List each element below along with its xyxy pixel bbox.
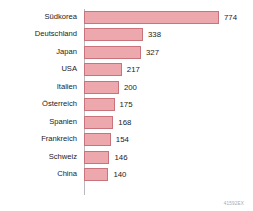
bar-track: 175 [84, 98, 253, 111]
bar-value-label: 327 [146, 48, 159, 57]
chart-title [8, 0, 208, 2]
bar-value-label: 338 [148, 30, 161, 39]
plot-area: Südkorea774Deutschland338Japan327USA217I… [0, 9, 253, 195]
bar-track: 327 [84, 46, 253, 59]
category-label: Südkorea [0, 12, 77, 21]
bar-value-label: 200 [124, 83, 137, 92]
bar-track: 200 [84, 81, 253, 94]
bar-row: Schweiz146 [0, 149, 253, 167]
bar [84, 151, 109, 164]
bar-row: Österreich175 [0, 97, 253, 115]
bar-track: 146 [84, 151, 253, 164]
bar-track: 154 [84, 133, 253, 146]
bar-row: China140 [0, 167, 253, 185]
bar-row: USA217 [0, 62, 253, 80]
bar-track: 217 [84, 63, 253, 76]
bar-row: Italien200 [0, 79, 253, 97]
bar [84, 116, 113, 129]
bar-value-label: 217 [127, 65, 140, 74]
bar-chart: Südkorea774Deutschland338Japan327USA217I… [0, 0, 253, 211]
bar-row: Spanien168 [0, 114, 253, 132]
bar-track: 140 [84, 168, 253, 181]
bar [84, 28, 143, 41]
bar-row: Japan327 [0, 44, 253, 62]
bar-row: Frankreich154 [0, 132, 253, 150]
bar-value-label: 140 [113, 170, 126, 179]
bar-row: Deutschland338 [0, 27, 253, 45]
category-label: USA [0, 64, 77, 73]
bar-track: 774 [84, 11, 253, 24]
category-label: Deutschland [0, 29, 77, 38]
bar-value-label: 154 [116, 135, 129, 144]
bar [84, 133, 111, 146]
category-label: Schweiz [0, 152, 77, 161]
bar [84, 168, 108, 181]
bar-row: Südkorea774 [0, 9, 253, 27]
category-label: Japan [0, 47, 77, 56]
category-label: Spanien [0, 117, 77, 126]
bar-value-label: 168 [118, 118, 131, 127]
bar-value-label: 175 [120, 100, 133, 109]
category-label: Frankreich [0, 134, 77, 143]
category-label: China [0, 169, 77, 178]
bar-track: 168 [84, 116, 253, 129]
category-label: Österreich [0, 99, 77, 108]
bar [84, 98, 115, 111]
reference-code: 41592EX [224, 201, 244, 206]
bar-value-label: 774 [224, 13, 237, 22]
bar [84, 11, 219, 24]
bar [84, 46, 141, 59]
category-label: Italien [0, 82, 77, 91]
bar [84, 81, 119, 94]
bar-value-label: 146 [114, 153, 127, 162]
bar [84, 63, 122, 76]
bar-track: 338 [84, 28, 253, 41]
